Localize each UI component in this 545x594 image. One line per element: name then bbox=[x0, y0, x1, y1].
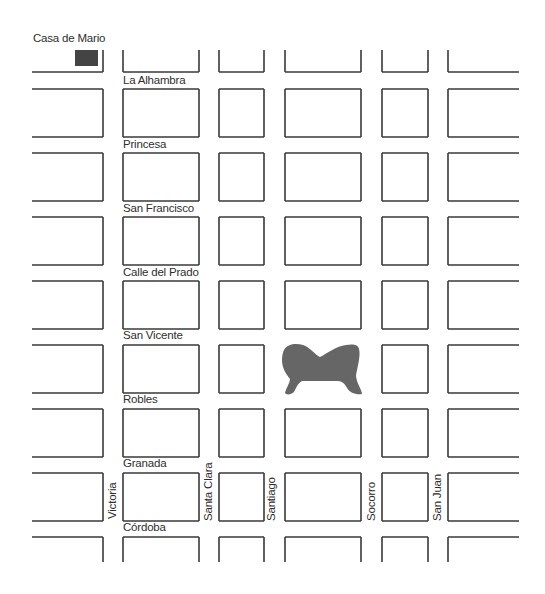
city-block bbox=[219, 409, 264, 457]
street-label-victoria: Victoria bbox=[106, 482, 118, 519]
city-block bbox=[448, 50, 519, 72]
city-block bbox=[382, 50, 428, 72]
city-block bbox=[123, 153, 199, 201]
city-block bbox=[219, 537, 264, 562]
city-block bbox=[382, 345, 428, 393]
city-block bbox=[448, 473, 519, 521]
city-block bbox=[285, 473, 361, 521]
city-block bbox=[32, 409, 103, 457]
city-block bbox=[285, 89, 361, 137]
city-block bbox=[32, 345, 103, 393]
city-block bbox=[448, 345, 519, 393]
city-block bbox=[123, 409, 199, 457]
city-block bbox=[382, 409, 428, 457]
city-block bbox=[285, 217, 361, 265]
city-block bbox=[448, 409, 519, 457]
city-block bbox=[32, 217, 103, 265]
street-label-la-alhambra: La Alhambra bbox=[123, 74, 186, 86]
city-block bbox=[285, 537, 361, 562]
city-block bbox=[219, 153, 264, 201]
vertical-street-labels: VictoriaSanta ClaraSantiagoSocorroSan Ju… bbox=[106, 462, 443, 521]
city-block bbox=[123, 217, 199, 265]
casa-de-mario-label: Casa de Mario bbox=[33, 32, 105, 44]
street-label-santiago: Santiago bbox=[265, 477, 277, 521]
city-block bbox=[219, 89, 264, 137]
street-label-san-vicente: San Vicente bbox=[123, 329, 183, 341]
city-block bbox=[123, 473, 199, 521]
city-block bbox=[123, 537, 199, 562]
city-block bbox=[382, 473, 428, 521]
city-block bbox=[32, 153, 103, 201]
city-block bbox=[448, 281, 519, 329]
casa-de-mario-marker[interactable] bbox=[75, 50, 98, 66]
street-label-san-francisco: San Francisco bbox=[123, 202, 194, 214]
city-block bbox=[32, 281, 103, 329]
street-label-socorro: Socorro bbox=[365, 482, 377, 521]
street-map: Casa de Mario La AlhambraPrincesaSan Fra… bbox=[0, 0, 545, 594]
city-block bbox=[123, 89, 199, 137]
city-block bbox=[382, 281, 428, 329]
street-label-santa-clara: Santa Clara bbox=[202, 462, 214, 521]
street-label-córdoba: Córdoba bbox=[123, 521, 167, 533]
city-block bbox=[32, 89, 103, 137]
city-block bbox=[285, 50, 361, 72]
city-block bbox=[219, 345, 264, 393]
horizontal-street-labels: La AlhambraPrincesaSan FranciscoCalle de… bbox=[123, 74, 199, 533]
city-block bbox=[219, 281, 264, 329]
city-block bbox=[382, 217, 428, 265]
plaza-park-shape[interactable] bbox=[282, 344, 362, 394]
city-block bbox=[32, 537, 103, 562]
city-block bbox=[219, 473, 264, 521]
city-block bbox=[285, 153, 361, 201]
city-block bbox=[382, 537, 428, 562]
street-label-princesa: Princesa bbox=[123, 138, 167, 150]
street-label-robles: Robles bbox=[123, 393, 158, 405]
city-block bbox=[448, 153, 519, 201]
city-block bbox=[448, 217, 519, 265]
city-block bbox=[32, 473, 103, 521]
street-label-granada: Granada bbox=[123, 457, 167, 469]
city-block bbox=[285, 281, 361, 329]
city-block bbox=[382, 153, 428, 201]
street-label-san-juan: San Juan bbox=[431, 474, 443, 521]
city-block bbox=[285, 409, 361, 457]
city-block bbox=[448, 89, 519, 137]
city-block bbox=[123, 50, 199, 72]
city-block bbox=[382, 89, 428, 137]
street-label-calle-del-prado: Calle del Prado bbox=[123, 266, 199, 278]
city-block bbox=[219, 50, 264, 72]
city-block bbox=[448, 537, 519, 562]
city-block bbox=[219, 217, 264, 265]
city-block bbox=[123, 345, 199, 393]
city-block bbox=[123, 281, 199, 329]
